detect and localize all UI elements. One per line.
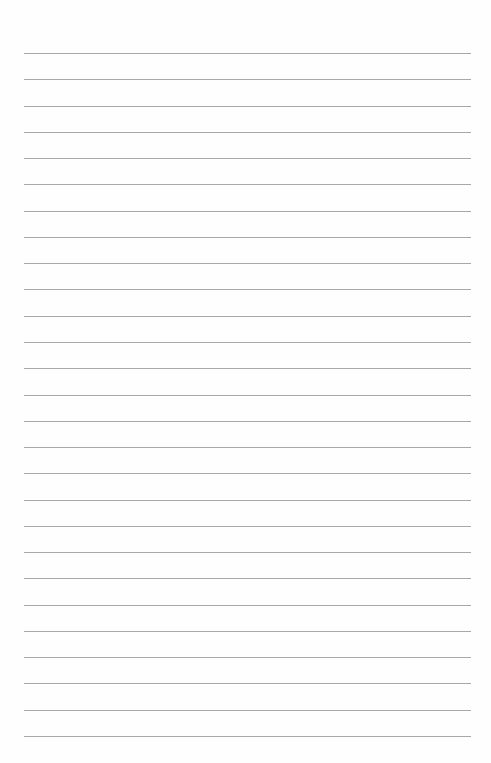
ruled-line	[24, 316, 471, 317]
ruled-line	[24, 605, 471, 606]
ruled-line	[24, 736, 471, 737]
ruled-line	[24, 500, 471, 501]
ruled-line	[24, 53, 471, 54]
ruled-line	[24, 106, 471, 107]
ruled-line	[24, 263, 471, 264]
ruled-line	[24, 447, 471, 448]
ruled-line	[24, 657, 471, 658]
ruled-line	[24, 158, 471, 159]
ruled-line	[24, 526, 471, 527]
ruled-line	[24, 421, 471, 422]
ruled-line	[24, 342, 471, 343]
ruled-line	[24, 395, 471, 396]
ruled-line	[24, 289, 471, 290]
ruled-line	[24, 683, 471, 684]
ruled-line	[24, 184, 471, 185]
lined-paper-page	[0, 0, 491, 763]
ruled-line	[24, 473, 471, 474]
ruled-line	[24, 132, 471, 133]
ruled-line	[24, 368, 471, 369]
ruled-line	[24, 79, 471, 80]
ruled-line	[24, 237, 471, 238]
ruled-line	[24, 710, 471, 711]
ruled-line	[24, 578, 471, 579]
ruled-line	[24, 211, 471, 212]
ruled-line	[24, 552, 471, 553]
ruled-line	[24, 631, 471, 632]
